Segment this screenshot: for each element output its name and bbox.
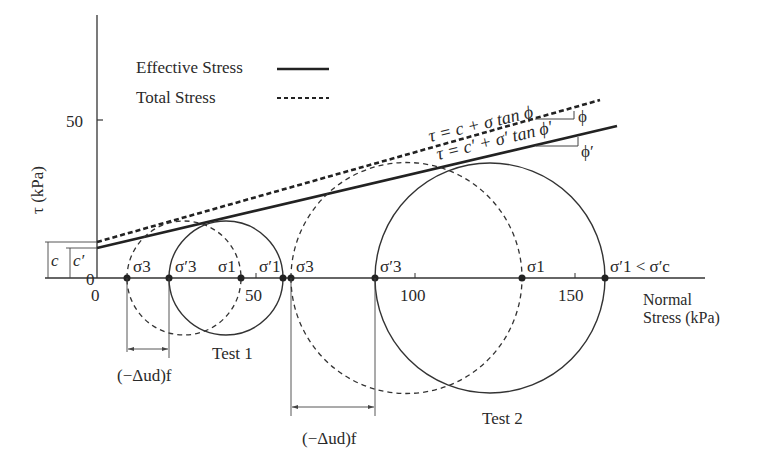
legend-effective-label: Effective Stress [136,58,243,77]
test1-label: Test 1 [212,344,253,363]
test1-sigma3-prime-label: σ′3 [175,257,196,276]
arrow-head-left-icon [292,405,298,409]
x-axis-label-line1: Normal [643,291,692,308]
test2-label: Test 2 [482,409,523,428]
test2-sigma1-label: σ1 [527,257,545,276]
x-axis-label-line2: Stress (kPa) [643,309,720,327]
legend-total-label: Total Stress [136,88,216,107]
arrow-head-right-icon [368,405,374,409]
phi-prime-label: ϕ′ [581,142,594,161]
test2-sigma1-prime-label: σ′1 < σ′c [610,257,670,276]
x-tick-label-50: 50 [245,286,262,305]
phi-label: ϕ [578,107,587,126]
x-tick-label-100: 100 [400,286,426,305]
test1-sigma1-label: σ1 [218,257,236,276]
test1-pore-pressure-label: (−Δud)f [117,366,172,385]
x-tick-label-150: 150 [558,286,584,305]
mohr-circle-diagram: Effective Stress Total Stress 50 0 τ (kP… [0,0,764,471]
test1-sigma3-label: σ3 [133,257,151,276]
c-label: c [51,251,59,270]
test2-pore-pressure-label: (−Δud)f [302,429,357,448]
test1-sigma1-prime-label: σ′1 [259,257,280,276]
x-tick-label-0: 0 [91,286,100,305]
effective-stress-envelope [97,126,617,248]
test2-sigma3-label: σ3 [296,257,314,276]
y-tick-label-50: 50 [66,112,83,131]
arrow-head-right-icon [162,347,168,351]
arrow-head-left-icon [128,347,134,351]
y-axis-label: τ (kPa) [28,166,47,214]
c-prime-label: c′ [73,251,85,270]
test2-sigma3-prime-label: σ′3 [380,257,401,276]
